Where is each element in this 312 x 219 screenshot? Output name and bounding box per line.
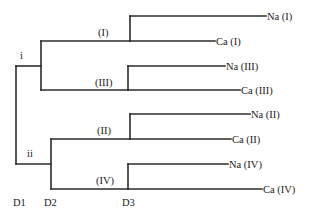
subcluster-III-label: (III) xyxy=(95,77,113,89)
leaf-ca-III-label: Ca (III) xyxy=(241,85,273,97)
leaf-na-III-label: Na (III) xyxy=(226,61,259,73)
cluster-i-label: i xyxy=(20,50,23,61)
leaf-ca-I-label: Ca (I) xyxy=(216,36,241,48)
subcluster-II-label: (II) xyxy=(97,125,111,137)
leaf-ca-II-label: Ca (II) xyxy=(232,134,261,146)
level-label-d1: D1 xyxy=(13,197,26,208)
leaf-na-I-label: Na (I) xyxy=(267,11,293,23)
leaf-ca-IV-label: Ca (IV) xyxy=(263,184,296,196)
level-label-d2: D2 xyxy=(44,197,57,208)
subcluster-IV-label: (IV) xyxy=(96,175,115,187)
leaf-na-II-label: Na (II) xyxy=(251,109,280,121)
subcluster-I-label: (I) xyxy=(98,27,109,39)
dendrogram: i (I) Na (I) Ca (I) (III) Na (III) Ca (I… xyxy=(0,0,312,219)
leaf-na-IV-label: Na (IV) xyxy=(229,159,262,171)
level-label-d3: D3 xyxy=(122,197,135,208)
cluster-ii-label: ii xyxy=(27,148,33,159)
